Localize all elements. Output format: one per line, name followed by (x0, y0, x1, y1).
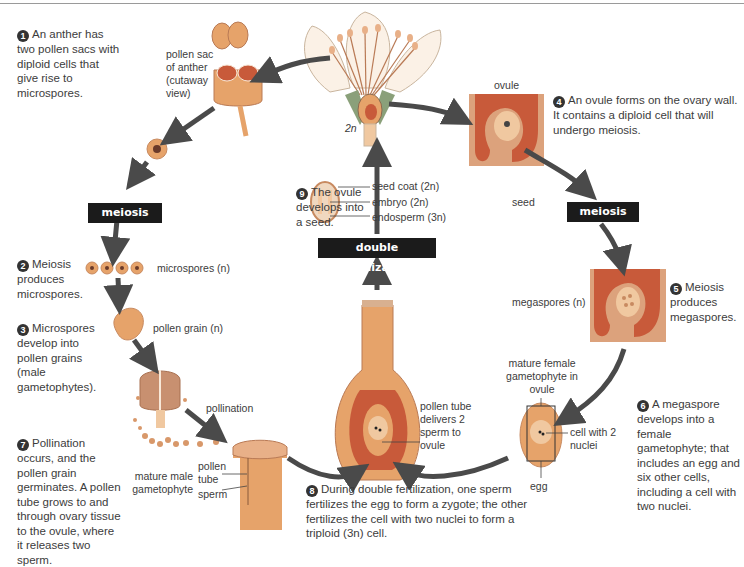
sperm-label: sperm (198, 488, 227, 501)
step-5-text: 5Meiosis produces megaspores. (670, 280, 744, 324)
pollen-sac-label: pollen sac of anther (cutaway view) (166, 48, 216, 100)
step-4-text: 4An ovule forms on the ovary wall. It co… (553, 93, 743, 137)
female-gametophyte-icon (520, 403, 562, 467)
endosperm-label: endosperm (3n) (372, 211, 446, 224)
mature-male-gametophyte-label: mature male gametophyte (128, 470, 193, 496)
step-8-badge: 8 (306, 485, 318, 497)
pollen-grain-label: pollen grain (n) (153, 322, 223, 335)
step-2-text: 2Meiosis produces microspores. (17, 257, 97, 301)
stigma-style-icon (233, 440, 287, 530)
pollen-grain-icon (114, 308, 144, 340)
pollen-tube-delivers-label: pollen tube delivers 2 sperm to ovule (420, 400, 482, 452)
step-9-text: 9The ovule develops into a seed. (296, 185, 364, 229)
megaspores-icon (590, 269, 666, 342)
flower-ploidy-label: 2n (345, 122, 357, 135)
step-5-badge: 5 (670, 283, 682, 295)
step-7-badge: 7 (17, 439, 29, 451)
egg-label: egg (530, 480, 548, 493)
seed-label: seed (512, 196, 535, 209)
double-fertilization-box: double fertilization (318, 238, 436, 258)
step-1-badge: 1 (17, 30, 29, 42)
diploid-cell-icon (147, 139, 167, 159)
step-9-badge: 9 (296, 188, 308, 200)
seed-coat-label: seed coat (2n) (372, 180, 439, 193)
step-6-badge: 6 (637, 400, 649, 412)
ovary-fertilization-icon (335, 300, 420, 480)
pollen-tube-label: pollen tube (198, 460, 228, 486)
embryo-label: embryo (2n) (372, 196, 429, 209)
step-3-text: 3Microspores develop into pollen grains … (17, 321, 112, 394)
meiosis-box-left: meiosis (88, 203, 162, 223)
microspores-label: microspores (n) (157, 262, 230, 275)
meiosis-box-right: meiosis (567, 202, 639, 222)
step-1-text: 1An anther has two pollen sacs with dipl… (17, 27, 122, 100)
step-7-text: 7Pollination occurs, and the pollen grai… (17, 436, 122, 567)
cell-with-2-nuclei-label: cell with 2 nuclei (570, 426, 618, 452)
flower-icon (305, 12, 441, 146)
ovule-label: ovule (494, 79, 519, 92)
step-8-text: 8During double fertilization, one sperm … (306, 482, 546, 541)
step-4-badge: 4 (553, 96, 565, 108)
mature-female-gametophyte-label: mature female gametophyte in ovule (502, 357, 582, 396)
step-6-text: 6A megaspore develops into a female game… (637, 397, 742, 514)
pollination-label: pollination (206, 402, 253, 415)
step-3-badge: 3 (17, 324, 29, 336)
step-2-badge: 2 (17, 260, 29, 272)
anther-icon (212, 22, 262, 136)
megaspores-label: megaspores (n) (512, 296, 586, 309)
